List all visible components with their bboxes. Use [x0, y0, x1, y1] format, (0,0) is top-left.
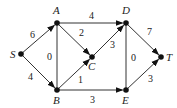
edge-e-t [126, 59, 158, 90]
edge-weight: 2 [79, 27, 84, 38]
edge-weight: 3 [148, 73, 153, 84]
node-s [18, 51, 24, 57]
node-c [89, 54, 95, 60]
node-label-a: A [52, 4, 60, 16]
edge-weight: 3 [110, 39, 115, 50]
node-label-b: B [53, 94, 60, 106]
node-label-e: E [121, 94, 129, 106]
node-t [158, 54, 164, 60]
nodes [18, 20, 164, 93]
edge-d-t [126, 23, 158, 55]
edge-s-a [21, 25, 54, 54]
node-e [123, 87, 129, 93]
edge-b-c [57, 59, 89, 90]
edge-c-d [92, 25, 124, 57]
node-label-c: C [88, 60, 96, 72]
node-b [54, 87, 60, 93]
edge-weight: 0 [131, 52, 136, 63]
node-label-d: D [121, 4, 130, 16]
edge-weight: 3 [90, 94, 95, 105]
node-d [123, 20, 129, 26]
edge-a-c [57, 23, 89, 55]
edge-weight: 1 [78, 74, 83, 85]
node-label-t: T [166, 51, 173, 63]
edge-weight: 4 [28, 71, 33, 82]
edge-weight: 0 [47, 51, 52, 62]
edge-weight: 4 [89, 10, 94, 21]
graph-diagram: 64024133073 SABCDET [0, 0, 177, 108]
edge-weight: 7 [147, 26, 152, 37]
node-label-s: S [10, 48, 16, 60]
node-a [54, 20, 60, 26]
edge-weight: 6 [30, 29, 35, 40]
